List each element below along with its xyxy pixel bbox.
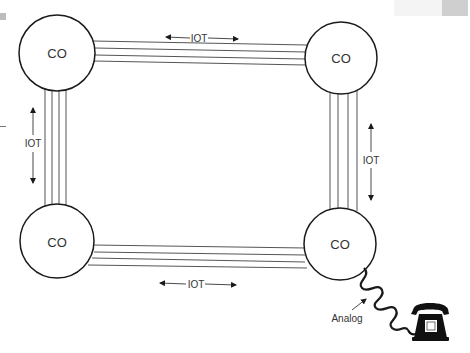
telephone-icon: [408, 303, 449, 341]
network-diagram: CO CO CO CO IOT IOT IOT IOT: [0, 0, 470, 353]
iot-text: IOT: [191, 33, 208, 44]
iot-text: IOT: [188, 279, 205, 290]
co-label: CO: [331, 51, 351, 66]
iot-text: IOT: [363, 155, 380, 166]
trunk-top: [93, 41, 307, 65]
co-node-bottom-left: CO: [20, 204, 94, 278]
iot-label-left: IOT: [24, 108, 42, 183]
phone-cord: [361, 268, 408, 330]
iot-label-bottom: IOT: [160, 279, 236, 290]
trunk-bottom: [88, 245, 307, 268]
co-node-top-left: CO: [19, 15, 95, 91]
trunk-left: [45, 88, 66, 207]
co-label: CO: [47, 46, 67, 61]
iot-text: IOT: [25, 138, 42, 149]
trunk-right: [330, 90, 357, 211]
co-label: CO: [330, 237, 350, 252]
co-node-top-right: CO: [305, 22, 377, 94]
analog-label: Analog: [331, 313, 362, 324]
iot-label-right: IOT: [362, 124, 380, 200]
co-label: CO: [47, 235, 67, 250]
analog-label-group: Analog: [331, 299, 366, 324]
